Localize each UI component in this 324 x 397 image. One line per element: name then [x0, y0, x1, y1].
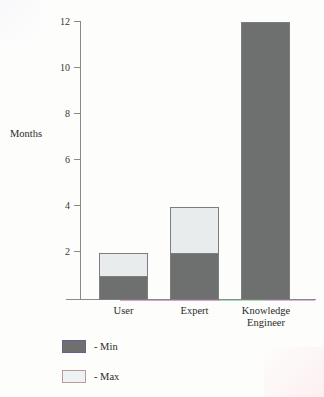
- x-category-label-user: User: [99, 305, 148, 317]
- x-category-label-expert-line1: Expert: [170, 305, 219, 317]
- x-category-label-expert: Expert: [170, 305, 219, 317]
- x-category-label-user-line1: User: [99, 305, 148, 317]
- x-category-label-knowledge-engineer-line1: Knowledge: [230, 305, 302, 317]
- y-tick-10: 10: [0, 63, 70, 73]
- legend-label-max: - Max: [94, 370, 119, 383]
- y-tick-mark-12: [74, 21, 81, 22]
- legend-label-min: - Min: [94, 340, 118, 353]
- bar-expert-max-segment: [170, 207, 219, 254]
- y-axis-title: Months: [10, 128, 42, 140]
- bar-knowledge-engineer-min-segment: [241, 22, 290, 300]
- y-tick-mark-8: [74, 113, 81, 114]
- y-tick-mark-4: [74, 205, 81, 206]
- x-category-label-knowledge-engineer-line2: Engineer: [230, 317, 302, 329]
- y-tick-mark-2: [74, 251, 81, 252]
- chart-legend: - Min - Max: [0, 334, 324, 397]
- bar-user[interactable]: [99, 254, 148, 300]
- baseline-fringe-green: [220, 300, 265, 301]
- bar-knowledge-engineer[interactable]: [241, 22, 290, 300]
- y-axis-line: [80, 21, 81, 300]
- baseline-fringe-magenta-left: [120, 300, 220, 301]
- y-tick-label-10: 10: [48, 63, 70, 73]
- bar-user-min-segment: [99, 276, 148, 300]
- y-tick-label-8: 8: [48, 109, 70, 119]
- bar-expert-min-segment: [170, 253, 219, 300]
- y-tick-label-12: 12: [48, 17, 70, 27]
- baseline-fringe-magenta-right: [265, 300, 315, 301]
- bar-user-max-segment: [99, 253, 148, 277]
- y-tick-4: 4: [0, 201, 70, 211]
- legend-swatch-max-icon: [62, 370, 86, 383]
- plot-area: Months 12 10 8 6 4: [0, 0, 324, 330]
- y-tick-label-4: 4: [48, 201, 70, 211]
- y-tick-label-6: 6: [48, 155, 70, 165]
- y-tick-mark-6: [74, 159, 81, 160]
- y-tick-12: 12: [0, 17, 70, 27]
- y-tick-2: 2: [0, 247, 70, 257]
- legend-swatch-min-icon: [62, 340, 86, 353]
- y-tick-mark-10: [74, 67, 81, 68]
- x-category-label-knowledge-engineer: Knowledge Engineer: [230, 305, 302, 328]
- chart-page: Months 12 10 8 6 4: [0, 0, 324, 397]
- y-tick-label-2: 2: [48, 247, 70, 257]
- y-tick-8: 8: [0, 109, 70, 119]
- y-tick-6: 6: [0, 155, 70, 165]
- bar-expert[interactable]: [170, 207, 219, 300]
